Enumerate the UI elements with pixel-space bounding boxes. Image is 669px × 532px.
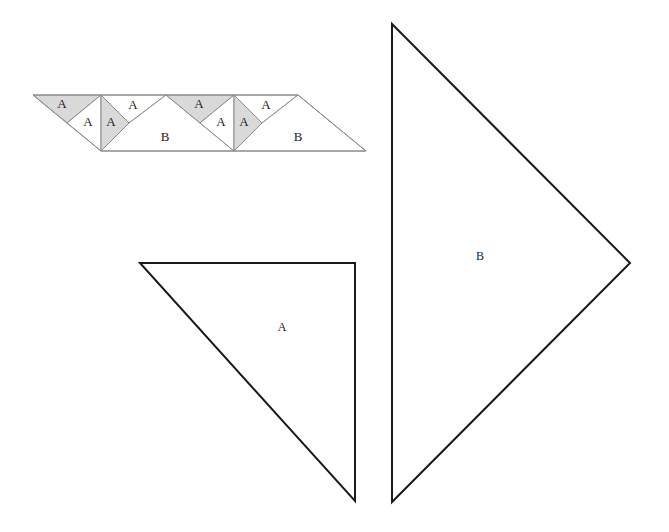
label-u1-big: B	[161, 129, 170, 144]
label-u2-white-left: A	[216, 114, 226, 129]
quilt-diagram: A A A A B A A A A B A B	[0, 0, 669, 532]
label-u1-white-left: A	[83, 114, 93, 129]
template-a-triangle	[140, 263, 355, 501]
label-u2-big: B	[294, 129, 303, 144]
template-b-label: B	[476, 249, 484, 263]
template-a-label: A	[278, 320, 287, 334]
template-b: B	[392, 24, 630, 502]
label-u1-shaded-right: A	[106, 114, 116, 129]
label-u1-top-shaded: A	[57, 96, 67, 111]
template-b-triangle	[392, 24, 630, 502]
label-u2-shaded-right: A	[239, 114, 249, 129]
label-u2-top-shaded: A	[194, 96, 204, 111]
template-a: A	[140, 263, 355, 501]
label-u2-top-white: A	[261, 97, 271, 112]
label-u1-top-white: A	[128, 97, 138, 112]
quilt-strip: A A A A B A A A A B	[33, 95, 366, 151]
